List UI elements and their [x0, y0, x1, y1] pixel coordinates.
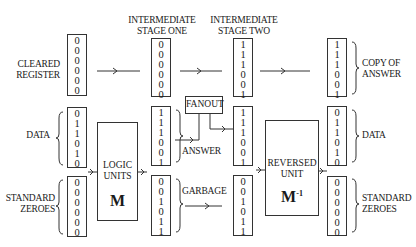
bit: 1 — [240, 227, 245, 237]
label-line: ANSWER — [362, 69, 401, 80]
register-zeroes-in: 0 0 0 0 0 0 — [67, 176, 87, 237]
unit-symbol: M — [98, 192, 137, 210]
unit-label: REVERSED — [266, 158, 318, 169]
header-stage-one: INTERMEDIATE STAGE ONE — [117, 15, 207, 37]
label-copy-of-answer: COPY OF ANSWER — [362, 58, 401, 80]
label-line: COPY OF — [362, 58, 401, 69]
register-cleared: 0 0 0 0 0 0 — [67, 34, 87, 96]
label-line: ZEROES — [0, 204, 55, 215]
register-stage-one-answer: 1 1 1 0 0 1 — [151, 106, 171, 166]
label-cleared-register: CLEARED REGISTER — [2, 59, 60, 81]
bit: 0 — [74, 86, 79, 96]
register-stage-one-top: 0 0 0 0 0 0 — [151, 38, 171, 97]
connection-lines — [0, 0, 416, 247]
bit: 1 — [240, 158, 245, 168]
bit: 0 — [334, 158, 339, 168]
header-line: INTERMEDIATE — [199, 15, 289, 26]
bit: 0 — [158, 90, 163, 100]
bit: 1 — [334, 90, 339, 100]
label-garbage: GARBAGE — [182, 186, 227, 197]
fanout-block: FANOUT — [185, 96, 223, 114]
register-stage-two-answer: 1 1 1 0 0 1 — [233, 106, 253, 166]
register-zeroes-out: 0 0 0 0 0 0 — [327, 176, 347, 236]
register-stage-two-top: 1 1 1 0 0 1 — [233, 38, 253, 97]
header-line: INTERMEDIATE — [117, 15, 207, 26]
logic-units-block: LOGIC UNITS M — [97, 122, 138, 221]
unit-superscript: -1 — [296, 189, 303, 198]
register-stage-one-garbage: 0 0 1 0 1 1 — [151, 175, 171, 236]
bit: 1 — [240, 90, 245, 100]
bit: 1 — [158, 158, 163, 168]
label-standard-zeroes-in: STANDARD ZEROES — [0, 193, 55, 215]
label-line: REGISTER — [2, 70, 60, 81]
register-copy-of-answer: 1 1 1 0 0 1 — [327, 38, 347, 97]
label-line: DATA — [362, 130, 386, 141]
unit-label: UNIT — [266, 169, 318, 180]
reversed-unit-block: REVERSED UNIT M-1 — [265, 120, 319, 216]
label-data-out: DATA — [362, 130, 386, 141]
header-line: STAGE TWO — [199, 26, 289, 37]
label-line: ZEROES — [362, 204, 411, 215]
label-line: STANDARD — [362, 193, 411, 204]
register-data-out: 0 1 1 0 1 0 — [327, 106, 347, 166]
header-line: STAGE ONE — [117, 26, 207, 37]
unit-symbol: M — [281, 188, 296, 205]
label-line: STANDARD — [0, 193, 55, 204]
label-line: DATA — [2, 130, 50, 141]
label-answer: ANSWER — [182, 146, 221, 157]
bit: 0 — [334, 228, 339, 238]
label-line: CLEARED — [2, 59, 60, 70]
unit-label: UNITS — [98, 171, 137, 182]
label-standard-zeroes-out: STANDARD ZEROES — [362, 193, 411, 215]
bit: 0 — [74, 228, 79, 238]
bit: 1 — [158, 227, 163, 237]
register-stage-two-garbage: 0 0 1 0 1 1 — [233, 175, 253, 236]
label-data-in: DATA — [2, 130, 50, 141]
bit: 0 — [74, 159, 79, 169]
unit-label: LOGIC — [98, 160, 137, 171]
register-data-in: 0 1 1 0 1 0 — [67, 107, 87, 168]
header-stage-two: INTERMEDIATE STAGE TWO — [199, 15, 289, 37]
